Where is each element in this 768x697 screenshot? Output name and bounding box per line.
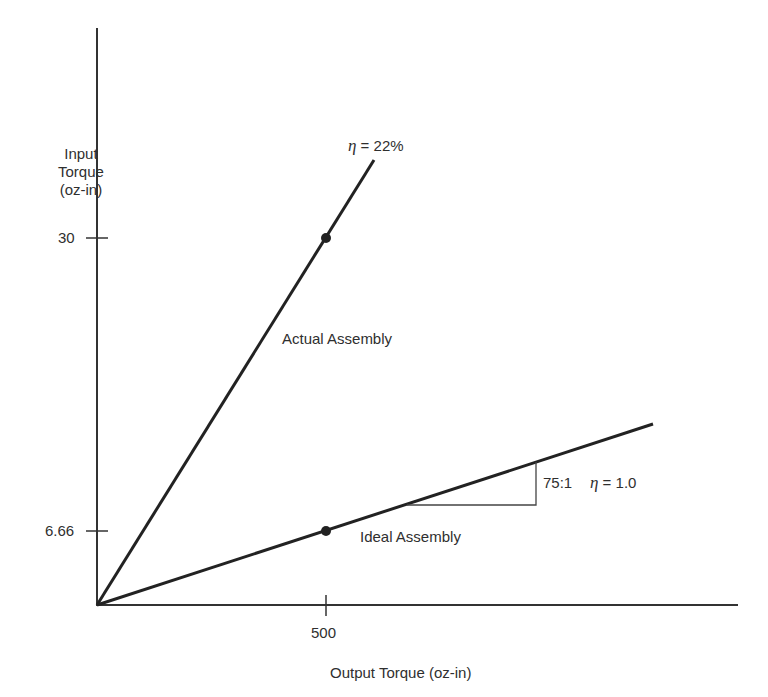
actual-assembly-label: Actual Assembly: [282, 330, 392, 348]
torque-chart: [0, 0, 768, 697]
x-axis-label: Output Torque (oz-in): [330, 664, 471, 682]
gear-ratio-label: 75:1: [543, 474, 572, 492]
x-tick-label-500: 500: [311, 624, 336, 642]
eta-symbol: η: [590, 473, 598, 492]
actual-assembly-point: [321, 233, 331, 243]
eta-symbol: η: [348, 136, 356, 155]
y-axis-label: Input Torque (oz-in): [58, 145, 104, 199]
y-tick-label-30: 30: [58, 229, 75, 247]
actual-efficiency-label: η = 22%: [348, 137, 404, 155]
ideal-assembly-point: [321, 526, 331, 536]
actual-assembly-line: [97, 160, 374, 605]
ideal-assembly-label: Ideal Assembly: [360, 528, 461, 546]
ideal-assembly-line: [97, 424, 653, 605]
y-axis-label-line1: Input: [58, 145, 104, 163]
ideal-efficiency-value: = 1.0: [603, 474, 637, 491]
y-tick-label-6.66: 6.66: [45, 522, 74, 540]
y-axis-label-line2: Torque: [58, 163, 104, 181]
actual-efficiency-value: = 22%: [361, 137, 404, 154]
ideal-efficiency-label: η = 1.0: [590, 474, 636, 492]
y-axis-label-line3: (oz-in): [58, 181, 104, 199]
